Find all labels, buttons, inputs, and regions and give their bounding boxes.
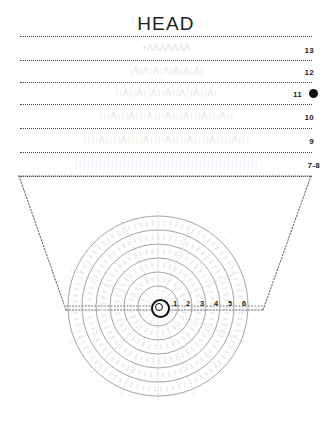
pattern-page: HEAD •ΛΛΛΛΛΛΛ 13 ∣Λ∣Λ∣Λ∣Λ∣Λ∣Λ∣Λ∣ 12 ∣∣Λ∣… bbox=[0, 0, 332, 424]
round-chart bbox=[0, 0, 332, 424]
round-number-2: 2 bbox=[186, 299, 190, 308]
round-number-5: 5 bbox=[228, 299, 232, 308]
round-number-4: 4 bbox=[214, 299, 218, 308]
round-number-3: 3 bbox=[200, 299, 204, 308]
magic-ring-inner-icon bbox=[155, 303, 163, 311]
round-number-6: 6 bbox=[242, 299, 246, 308]
round-number-1: 1 bbox=[173, 299, 177, 308]
